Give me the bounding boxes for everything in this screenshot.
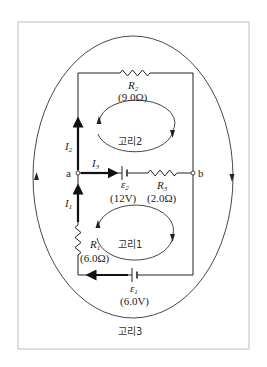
node-a bbox=[76, 171, 80, 175]
e1-value: (6.0V) bbox=[120, 295, 149, 308]
node-b-label: b bbox=[198, 167, 204, 179]
circuit-diagram: R2 (9.0Ω) I2 I3 I1 a b ε2 (12V) R3 (2.0Ω… bbox=[0, 0, 267, 367]
loop2-label: 고리2 bbox=[118, 136, 142, 147]
loop3-label: 고리3 bbox=[118, 326, 142, 337]
node-a-label: a bbox=[66, 167, 71, 179]
e2-value: (12V) bbox=[110, 192, 137, 205]
r1-value: (6.0Ω) bbox=[80, 252, 110, 265]
loop1-label: 고리1 bbox=[118, 239, 142, 250]
r2-value: (9.0Ω) bbox=[118, 91, 148, 104]
node-b bbox=[191, 171, 195, 175]
r3-value: (2.0Ω) bbox=[147, 192, 177, 205]
